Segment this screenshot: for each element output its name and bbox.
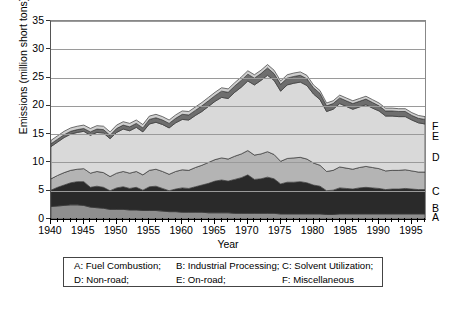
x-tick-mark xyxy=(227,218,228,222)
x-tick-mark xyxy=(332,218,333,222)
x-tick-mark xyxy=(267,218,268,222)
x-tick-mark xyxy=(273,218,274,222)
x-tick-mark xyxy=(155,218,156,222)
x-tick-mark xyxy=(96,218,97,222)
x-tick-mark xyxy=(260,218,261,222)
y-tick-label: 20 xyxy=(4,99,44,110)
gridline-15 xyxy=(51,134,425,135)
x-tick-mark xyxy=(404,218,405,222)
x-tick-mark xyxy=(326,218,327,222)
x-tick-mark xyxy=(352,218,353,222)
figure-caption xyxy=(0,300,456,310)
series-key-D: D xyxy=(432,152,440,162)
x-tick-mark xyxy=(417,218,418,222)
x-tick-mark xyxy=(70,218,71,222)
x-tick-mark xyxy=(135,218,136,222)
legend-row-first: A: Fuel Combustion;B: Industrial Process… xyxy=(64,258,382,273)
gridline-25 xyxy=(51,78,425,79)
y-tick-label: 10 xyxy=(4,156,44,167)
x-tick-mark xyxy=(306,218,307,222)
x-tick-mark xyxy=(194,218,195,222)
x-tick-mark xyxy=(240,218,241,222)
x-tick-mark xyxy=(162,218,163,222)
x-tick-mark xyxy=(208,218,209,222)
x-tick-mark xyxy=(372,218,373,222)
x-tick-mark xyxy=(358,218,359,222)
plot-area xyxy=(50,20,426,220)
gridline-5 xyxy=(51,191,425,192)
legend-box: A: Fuel Combustion;B: Industrial Process… xyxy=(63,257,383,287)
legend-entry: D: Non-road; xyxy=(74,272,129,287)
legend-entry: E: On-road; xyxy=(176,272,226,287)
x-tick-mark xyxy=(319,218,320,222)
x-tick-mark xyxy=(201,218,202,222)
y-tick-label: 0 xyxy=(4,213,44,224)
gridline-10 xyxy=(51,162,425,163)
series-key-C: C xyxy=(432,186,440,196)
x-tick-mark xyxy=(63,218,64,222)
x-tick-mark xyxy=(142,218,143,222)
x-tick-mark xyxy=(103,218,104,222)
gridline-35 xyxy=(51,21,425,22)
legend-row-second: D: Non-road;E: On-road;F: Miscellaneous xyxy=(64,272,382,287)
gridline-30 xyxy=(51,49,425,50)
x-tick-mark xyxy=(391,218,392,222)
x-tick-mark xyxy=(175,218,176,222)
x-tick-label: 1995 xyxy=(391,225,431,236)
y-tick-label: 5 xyxy=(4,184,44,195)
legend-entry: F: Miscellaneous xyxy=(282,272,354,287)
x-tick-mark xyxy=(286,218,287,222)
x-tick-mark xyxy=(129,218,130,222)
x-tick-mark xyxy=(188,218,189,222)
x-tick-mark xyxy=(339,218,340,222)
series-key-A: A xyxy=(432,212,439,222)
y-tick-label: 25 xyxy=(4,71,44,82)
y-tick-label: 30 xyxy=(4,43,44,54)
x-tick-mark xyxy=(57,218,58,222)
x-axis-title: Year xyxy=(0,238,456,250)
stacked-area-series xyxy=(51,21,425,219)
gridline-20 xyxy=(51,106,425,107)
y-tick-label: 15 xyxy=(4,128,44,139)
x-tick-mark xyxy=(76,218,77,222)
x-tick-mark xyxy=(234,218,235,222)
x-tick-mark xyxy=(385,218,386,222)
x-tick-mark xyxy=(221,218,222,222)
x-tick-mark xyxy=(122,218,123,222)
x-tick-mark xyxy=(365,218,366,222)
legend-entry: C: Solvent Utilization; xyxy=(282,258,373,273)
legend-entry: B: Industrial Processing; xyxy=(176,258,279,273)
figure: Emissions (million short tons) 051015202… xyxy=(0,0,456,310)
legend-entry: A: Fuel Combustion; xyxy=(74,258,161,273)
series-key-E: E xyxy=(432,131,439,141)
x-tick-mark xyxy=(424,218,425,222)
x-tick-mark xyxy=(398,218,399,222)
x-tick-mark xyxy=(293,218,294,222)
x-tick-mark xyxy=(89,218,90,222)
y-tick-label: 35 xyxy=(4,15,44,26)
x-tick-mark xyxy=(109,218,110,222)
x-tick-mark xyxy=(253,218,254,222)
x-tick-mark xyxy=(168,218,169,222)
x-tick-mark xyxy=(299,218,300,222)
